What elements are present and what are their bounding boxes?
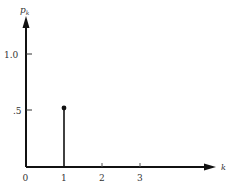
x-tick-label-3: 3	[137, 173, 143, 183]
x-tick-label-2: 2	[99, 173, 105, 183]
y-axis-label: pk	[20, 5, 30, 16]
x-axis-label: k	[221, 163, 226, 172]
y-axis-arrow-icon	[23, 16, 30, 28]
stem-point-k1	[62, 106, 67, 111]
y-tick-label-0.5: .5	[13, 106, 22, 116]
stem-plot: pk k 1.0 .5 0 1 2 3	[0, 0, 244, 194]
x-tick-label-1: 1	[61, 173, 67, 183]
x-axis-arrow-icon	[204, 164, 216, 171]
y-tick-label-1.0: 1.0	[4, 50, 19, 60]
x-tick-label-0: 0	[23, 173, 29, 183]
